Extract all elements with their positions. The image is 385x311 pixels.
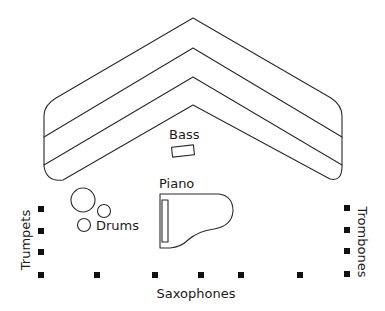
- trumpet-seat: [38, 206, 44, 212]
- drum-small-bottom-icon: [78, 219, 91, 232]
- trumpets-label: Trumpets: [18, 210, 33, 272]
- saxophone-seat: [38, 272, 44, 278]
- bass-label: Bass: [169, 127, 200, 142]
- saxophone-seat: [152, 272, 158, 278]
- saxophone-seat: [94, 272, 100, 278]
- riser-tier-line-2: [44, 77, 342, 165]
- saxophones-label: Saxophones: [157, 286, 236, 301]
- drum-small-right-icon: [98, 205, 111, 218]
- riser-outline: [44, 18, 342, 180]
- trumpet-seat: [38, 228, 44, 234]
- stage-diagram: Bass Piano Drums Trumpets Trombones Saxo…: [0, 0, 385, 311]
- drums-label: Drums: [96, 218, 139, 233]
- trombone-seat: [344, 248, 350, 254]
- trombone-seat: [344, 205, 350, 211]
- riser-tier-line-1: [44, 48, 342, 137]
- trumpet-seat: [38, 249, 44, 255]
- trombones-label: Trombones: [355, 206, 370, 278]
- saxophone-seat: [238, 272, 244, 278]
- piano-icon: [160, 194, 233, 248]
- saxophone-seat: [297, 272, 303, 278]
- piano-keyboard-icon: [162, 200, 168, 242]
- saxophone-seat: [344, 271, 350, 277]
- bass-icon: [172, 145, 195, 157]
- saxophone-seat: [198, 272, 204, 278]
- trombone-seat: [344, 227, 350, 233]
- drum-large-icon: [71, 188, 95, 212]
- piano-label: Piano: [159, 176, 194, 191]
